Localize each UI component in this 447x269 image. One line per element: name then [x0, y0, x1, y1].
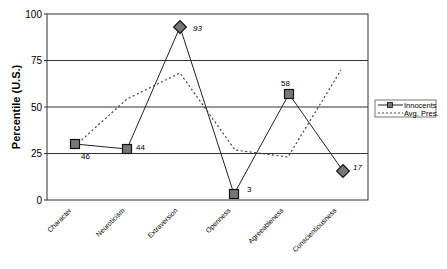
x-label-character: Character: [46, 206, 73, 233]
y-axis-label: Percentile (U.S.): [10, 64, 22, 149]
x-label-conscientiousness: Conscientiousness: [291, 206, 338, 253]
y-tick-75: 75: [31, 55, 43, 66]
y-tick-100: 100: [25, 9, 42, 20]
x-label-openness: Openness: [204, 206, 233, 235]
y-tick-50: 50: [31, 102, 43, 113]
x-label-neuroticism: Neuroticism: [95, 207, 126, 238]
y-tick-0: 0: [36, 195, 42, 206]
legend-innocents-marker: [388, 103, 393, 108]
data-label-neuroticism: 44: [136, 143, 145, 152]
legend-avg-pres: Avg. Pres.: [404, 109, 438, 118]
data-label-character: 46: [81, 152, 90, 161]
data-label-extraversion: 93: [193, 24, 202, 33]
marker-agreeableness: [285, 90, 294, 99]
chart: 100 75 50 25 0 Percentile (U.S.) Charact…: [0, 0, 447, 269]
x-label-agreeableness: Agreeableness: [247, 206, 286, 245]
x-label-extraversion: Extraversion: [146, 207, 179, 240]
marker-openness: [230, 190, 239, 199]
data-label-conscientiousness: 17: [353, 163, 362, 172]
marker-character: [71, 140, 80, 149]
data-label-openness: 3: [247, 185, 252, 194]
marker-neuroticism: [123, 145, 132, 154]
legend: Innocents Avg. Pres.: [375, 100, 438, 118]
y-tick-25: 25: [31, 148, 43, 159]
data-label-agreeableness: 58: [281, 79, 290, 88]
